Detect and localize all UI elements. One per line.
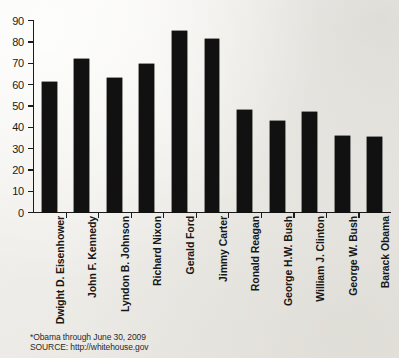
x-axis-category-label-text: Lyndon B. Johnson: [119, 216, 131, 312]
bar: [107, 78, 122, 212]
bar: [74, 59, 89, 212]
x-axis-category-label: Lyndon B. Johnson: [119, 216, 131, 312]
bar: [237, 110, 252, 212]
x-axis-line: [33, 212, 391, 213]
x-axis-category-label-text: Richard Nixon: [151, 216, 163, 286]
x-axis-category-labels: Dwight D. EisenhowerJohn F. KennedyLyndo…: [33, 216, 391, 328]
x-axis-category-label-text: William J. Clinton: [314, 216, 326, 302]
footnote-line-source: SOURCE: http://whitehouse.gov: [30, 343, 149, 353]
bar: [270, 121, 285, 212]
x-axis-category-label: George W. Bush: [347, 216, 359, 296]
bar-chart: 9080706050403020100 Dwight D. Eisenhower…: [0, 0, 399, 358]
y-axis-tick-80: 80: [28, 41, 33, 42]
bar: [172, 31, 187, 212]
bar: [302, 112, 317, 212]
x-axis-category-label: George H.W. Bush: [282, 216, 294, 306]
y-axis-tick-10: 10: [28, 191, 33, 192]
y-axis-tick-label: 90: [12, 15, 24, 27]
y-axis-tick-0: 0: [28, 212, 33, 213]
y-axis-tick-30: 30: [28, 148, 33, 149]
y-axis-tick-70: 70: [28, 63, 33, 64]
y-axis-tick-label: 10: [12, 185, 24, 197]
y-axis-tick-60: 60: [28, 84, 33, 85]
y-axis-line: [33, 20, 34, 212]
y-axis-tick-label: 50: [12, 100, 24, 112]
x-axis-category-label-text: George W. Bush: [347, 216, 359, 296]
y-axis-tick-label: 0: [18, 207, 24, 219]
x-axis-category-label-text: John F. Kennedy: [86, 216, 98, 298]
y-axis-tick-label: 80: [12, 36, 24, 48]
y-axis-tick-label: 40: [12, 121, 24, 133]
x-axis-category-label-text: Gerald Ford: [184, 216, 196, 274]
y-axis-tick-label: 70: [12, 57, 24, 69]
y-axis-tick-label: 20: [12, 164, 24, 176]
x-axis-category-label: Jimmy Carter: [217, 216, 229, 282]
y-axis-tick-label: 60: [12, 79, 24, 91]
x-axis-category-label: Richard Nixon: [151, 216, 163, 286]
bar: [205, 39, 220, 212]
bar: [335, 136, 350, 212]
y-axis-tick-50: 50: [28, 105, 33, 106]
x-axis-category-label: Barack Obama: [379, 216, 391, 288]
y-axis-tick-20: 20: [28, 169, 33, 170]
x-axis-category-label-text: Dwight D. Eisenhower: [54, 216, 66, 324]
y-axis-tick-40: 40: [28, 127, 33, 128]
bar: [139, 64, 154, 212]
plot-area: 9080706050403020100: [33, 20, 391, 212]
bar: [42, 82, 57, 212]
x-axis-category-label-text: Ronald Reagan: [249, 216, 261, 291]
x-axis-category-label: William J. Clinton: [314, 216, 326, 302]
x-axis-category-label-text: George H.W. Bush: [282, 216, 294, 306]
chart-footnote: *Obama through June 30, 2009 SOURCE: htt…: [30, 333, 149, 352]
x-axis-category-label-text: Barack Obama: [379, 216, 391, 288]
x-axis-category-label: Ronald Reagan: [249, 216, 261, 291]
bar: [367, 137, 382, 212]
x-axis-category-label-text: Jimmy Carter: [217, 216, 229, 282]
y-axis-tick-90: 90: [28, 20, 33, 21]
y-axis-tick-label: 30: [12, 143, 24, 155]
x-axis-category-label: Dwight D. Eisenhower: [54, 216, 66, 324]
x-axis-category-label: Gerald Ford: [184, 216, 196, 274]
x-axis-category-label: John F. Kennedy: [86, 216, 98, 298]
